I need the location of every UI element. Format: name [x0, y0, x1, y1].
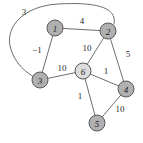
- graph-node-label-4: 4: [124, 85, 129, 94]
- edge-weight-2-6: 10: [83, 44, 92, 53]
- graph-diagram: 4−13105101110123456: [0, 0, 143, 143]
- edge-weight-1-3: −1: [32, 46, 42, 55]
- graph-edge-1-3: [42, 35, 53, 74]
- graph-node-label-3: 3: [38, 76, 43, 85]
- graph-node-label-1: 1: [53, 24, 58, 33]
- graph-node-label-2: 2: [106, 27, 111, 36]
- edge-weight-3-6: 10: [58, 64, 67, 73]
- edge-weight-6-5: 1: [78, 92, 83, 101]
- graph-node-label-5: 5: [95, 119, 100, 128]
- graph-canvas: [0, 0, 143, 143]
- graph-edge-3-6: [47, 72, 76, 78]
- graph-edge-6-5: [85, 78, 95, 116]
- graph-edge-6-4: [89, 74, 119, 87]
- graph-edge-2-4: [110, 38, 124, 83]
- edge-weight-2-3: 3: [22, 8, 27, 17]
- graph-edge-1-2: [62, 28, 101, 30]
- edge-weight-1-2: 4: [80, 17, 85, 26]
- edges-layer: [9, 4, 123, 118]
- edge-weight-6-4: 1: [104, 67, 109, 76]
- graph-node-label-6: 6: [81, 67, 86, 76]
- edge-weight-4-5: 10: [116, 105, 125, 114]
- edge-weight-2-4: 5: [126, 50, 131, 59]
